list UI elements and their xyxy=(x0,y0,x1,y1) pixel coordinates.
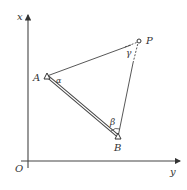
point-p xyxy=(137,39,141,43)
angle-alpha-label: α xyxy=(56,76,62,85)
line-bp xyxy=(118,63,133,137)
angle-beta-label: β xyxy=(109,117,115,127)
bar-ab-inner xyxy=(47,76,118,136)
point-p-label: P xyxy=(145,35,153,46)
point-a-label: A xyxy=(32,72,40,83)
angle-gamma-label: γ xyxy=(126,48,132,58)
x-axis-label: x xyxy=(17,11,23,22)
line-ap xyxy=(47,45,131,76)
y-axis-label: y xyxy=(169,166,176,177)
line-bp-dashed xyxy=(133,43,138,63)
geometry-diagram: x y O A B P α β γ xyxy=(0,0,187,190)
point-b-label: B xyxy=(113,142,121,153)
origin-label: O xyxy=(15,163,23,174)
